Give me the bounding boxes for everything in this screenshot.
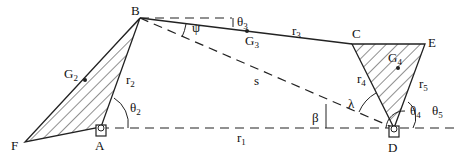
label-beta: β [312,110,319,125]
psi-arc [182,24,186,37]
label-psi: ψ [192,20,200,35]
label-s: s [254,73,259,88]
label-r3: r3 [292,23,301,40]
label-lambda: λ [348,96,355,111]
lambda-arc [359,93,376,112]
theta2-arc [114,98,128,128]
label-r2: r2 [126,72,135,89]
label-r5: r5 [419,76,428,93]
link-2-triangle [25,18,140,142]
pivot-a-icon [96,125,106,136]
pivot-d-icon [389,126,399,137]
label-g3: G3 [245,33,259,50]
g2-dot [83,78,87,82]
label-b: B [131,3,140,18]
linkage-diagram: B C E A D F r2 r3 r4 r5 r1 s G2 G3 G4 θ2… [0,0,459,160]
label-theta4: θ4 [410,103,421,120]
label-theta2: θ2 [130,100,141,117]
label-e: E [428,35,436,50]
label-a: A [95,138,105,153]
label-r1: r1 [237,130,246,147]
label-f: F [11,138,18,153]
label-theta5: θ5 [432,103,443,120]
label-g2: G2 [64,66,78,83]
label-d: D [388,140,397,155]
label-r4: r4 [357,71,366,88]
label-c: C [352,26,361,41]
label-theta3: θ3 [237,14,248,31]
